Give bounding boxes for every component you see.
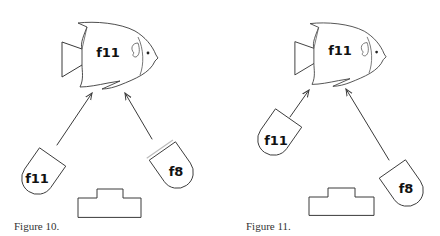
light-arrow-right [346,89,389,160]
stage-platform [309,188,374,215]
lens-label-left: f11 [264,133,288,148]
lens-label-left: f11 [25,171,49,186]
figure-10: f11 f11 f8 [15,22,199,217]
figure-11: f11 f11 f8 [251,23,429,215]
stage-platform [78,189,141,217]
fish-label: f11 [328,43,352,58]
figure-11-caption: Figure 11. [246,220,291,232]
figure-10-caption: Figure 10. [14,220,59,232]
light-arrow-right [125,93,152,139]
lens-label-right: f8 [169,164,184,179]
light-arrow-left [57,93,92,145]
fish-label: f11 [96,45,120,60]
light-arrow-left [290,90,309,117]
lens-label-right: f8 [399,181,414,196]
diagram-canvas: f11 f11 f8 f11 f11 [0,0,440,236]
